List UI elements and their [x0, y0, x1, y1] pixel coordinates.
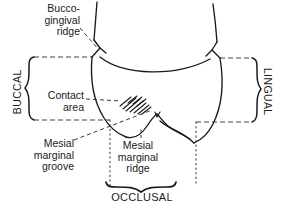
- label-mesial-marginal-ridge: Mesial marginal ridge: [100, 140, 176, 175]
- label-bucco-gingival-ridge: Bucco- gingival ridge: [6, 3, 80, 38]
- leader-contact-area: [86, 99, 121, 101]
- label-lingual: LINGUAL: [261, 62, 273, 122]
- lingual-brace: [252, 58, 261, 122]
- cervical-line-cej: [100, 57, 210, 72]
- label-occlusal: OCCLUSAL: [96, 192, 188, 204]
- leader-lines: [74, 28, 152, 140]
- lingual-cervical-notch-b: [212, 50, 220, 58]
- leader-mesial-marginal-groove: [74, 110, 152, 140]
- dental-anatomy-figure: Bucco- gingival ridge Contact area Mesia…: [0, 0, 281, 210]
- leader-bucco-gingival-ridge: [80, 28, 99, 50]
- buccal-crown-contour: [92, 57, 127, 137]
- label-mesial-marginal-groove: Mesial marginal groove: [2, 138, 74, 173]
- marginal-ridge-inner-fold: [160, 121, 190, 139]
- tooth-outline: [92, 2, 222, 143]
- buccal-root-stem: [94, 2, 97, 40]
- label-buccal: BUCCAL: [12, 62, 24, 122]
- contact-area-hatch: [120, 96, 151, 114]
- lingual-crown-contour: [194, 58, 222, 143]
- label-contact-area: Contact area: [22, 90, 84, 113]
- mesial-marginal-ridge-contour: [126, 114, 157, 138]
- lingual-root-stem: [213, 4, 217, 42]
